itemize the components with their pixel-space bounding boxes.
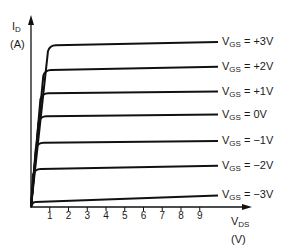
curve-1: [31, 67, 218, 207]
x-tick-label: 3: [82, 210, 92, 221]
x-tick-label: 7: [157, 210, 167, 221]
curve-6: [31, 195, 218, 207]
series-label: VGS = +2V: [222, 60, 273, 74]
y-axis-label: ID: [12, 20, 21, 34]
curve-2: [31, 92, 218, 208]
series-label: VGS = +1V: [222, 85, 273, 99]
x-tick-label: 4: [101, 210, 111, 221]
x-tick-label: 6: [139, 210, 149, 221]
x-axis-label: VDS: [231, 215, 249, 229]
x-tick-label: 1: [45, 210, 55, 221]
series-label: VGS = −3V: [222, 188, 273, 202]
x-tick-label: 9: [195, 210, 205, 221]
x-tick-label: 5: [120, 210, 130, 221]
x-label-sub: DS: [238, 220, 249, 229]
x-axis-unit: (V): [231, 233, 246, 245]
y-axis-unit: (A): [10, 38, 25, 50]
y-label-sub: D: [15, 25, 21, 34]
x-tick-label: 2: [64, 210, 74, 221]
series-label: VGS = −2V: [222, 159, 273, 173]
series-label: VGS = +3V: [222, 35, 273, 49]
x-tick-label: 8: [176, 210, 186, 221]
series-label: VGS = −1V: [222, 134, 273, 148]
series-label: VGS = 0V: [222, 108, 267, 122]
x-axis-arrow-icon: [242, 204, 252, 210]
y-axis-arrow-icon: [28, 15, 34, 25]
characteristic-curves: [31, 42, 218, 207]
curve-3: [31, 115, 218, 207]
